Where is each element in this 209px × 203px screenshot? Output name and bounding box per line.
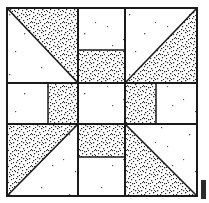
cell-top-center-lower: [78, 50, 125, 83]
page-edge-artifact: [201, 180, 206, 199]
cell-bottom-center-upper: [78, 124, 125, 157]
quilt-block-diagram: [0, 0, 209, 203]
cell-middle-left-inner: [48, 83, 78, 124]
cell-bottom-center-lower: [78, 157, 125, 196]
cell-middle-left-outer: [7, 83, 48, 124]
cell-top-center-upper: [78, 8, 125, 50]
cell-middle-right-outer: [156, 83, 197, 124]
cell-center: [78, 83, 125, 124]
cell-middle-right-inner: [125, 83, 156, 124]
quilt-block-figure: [0, 0, 209, 203]
